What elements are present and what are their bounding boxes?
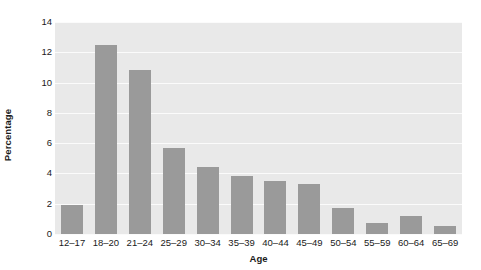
y-axis-tick-label: 14 [41,17,52,27]
bar [163,148,185,234]
bar-slot [89,22,123,234]
bar-slot [326,22,360,234]
bar-slot [292,22,326,234]
y-axis-tick-label: 4 [47,169,52,179]
x-axis-tick-label: 35–39 [225,237,259,248]
x-axis-tick-label: 60–64 [394,237,428,248]
bar-slot [225,22,259,234]
bar [332,208,354,234]
bar-slot [191,22,225,234]
bar-slot [394,22,428,234]
x-axis-tick-label: 50–54 [326,237,360,248]
bar [400,216,422,234]
bar [366,223,388,234]
x-axis-title: Age [55,253,462,264]
y-axis-tick-label: 10 [41,78,52,88]
bar [129,70,151,234]
bar-slot [55,22,89,234]
x-axis-tick-label: 45–49 [292,237,326,248]
x-axis-tick-label: 18–20 [89,237,123,248]
x-axis-tick-label: 65–69 [428,237,462,248]
x-axis-tick-label: 55–59 [360,237,394,248]
bar-slot [157,22,191,234]
bar [197,167,219,234]
y-axis-tick-label: 12 [41,48,52,58]
bar [434,226,456,234]
gridline [55,234,462,235]
x-axis-tick-label: 30–34 [191,237,225,248]
bar-chart: Percentage 02468101214 12–1718–2021–2425… [0,0,481,270]
y-axis-tick-labels: 02468101214 [30,0,52,270]
bar-slot [428,22,462,234]
bar-slot [259,22,293,234]
bar [95,45,117,234]
bar-slot [360,22,394,234]
y-axis-tick-label: 8 [47,108,52,118]
x-axis-tick-label: 12–17 [55,237,89,248]
bar [298,184,320,234]
plot-area [55,22,462,234]
y-axis-title-label: Percentage [2,109,13,161]
y-axis-tick-label: 0 [47,229,52,239]
y-axis-tick-label: 2 [47,199,52,209]
x-axis-tick-label: 25–29 [157,237,191,248]
x-axis-tick-label: 40–44 [259,237,293,248]
bar [61,205,83,234]
x-axis-tick-label: 21–24 [123,237,157,248]
y-axis-tick-label: 6 [47,138,52,148]
bar [231,176,253,234]
bar-series [55,22,462,234]
bar [264,181,286,234]
x-axis-tick-labels: 12–1718–2021–2425–2930–3435–3940–4445–49… [55,237,462,248]
bar-slot [123,22,157,234]
